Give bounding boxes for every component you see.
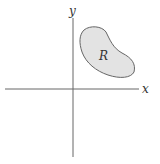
region-label: R — [98, 49, 108, 63]
coordinate-diagram: R x y — [0, 0, 160, 164]
y-axis-label: y — [68, 4, 76, 18]
x-axis-label: x — [142, 82, 149, 96]
